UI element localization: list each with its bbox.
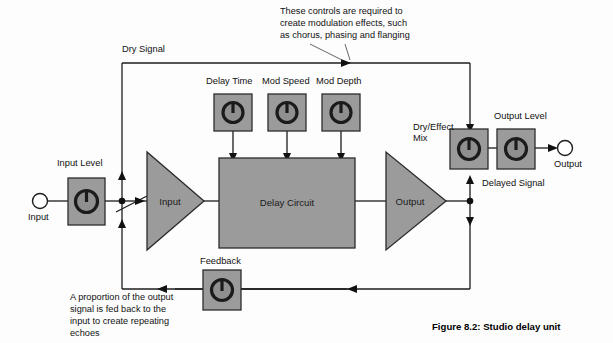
diagram-canvas: Input Output Delay Circuit Input Level D… (0, 0, 613, 343)
mod-speed-label: Mod Speed (262, 76, 310, 86)
input-amplifier[interactable]: Input (147, 152, 204, 250)
feedback-note-line-3: input to create repeating (70, 316, 169, 326)
arrowhead-delayed-into-mix (466, 175, 474, 184)
junction-dot-output (467, 198, 474, 205)
output-amp-label: Output (396, 196, 425, 207)
delayed-signal-label: Delayed Signal (482, 178, 545, 188)
figure-caption: Figure 8.2: Studio delay unit (432, 321, 561, 332)
arrowhead-dry-bus (341, 59, 351, 67)
leader-modulation-right (345, 44, 350, 60)
output-level-label: Output Level (494, 111, 547, 121)
feedback-note-line-2: signal is fed back to the (70, 304, 166, 314)
dry-effect-mix-label-line2: Mix (413, 133, 428, 143)
input-level-label: Input Level (57, 158, 103, 168)
modulation-note-line-2: create modulation effects, such (280, 18, 407, 28)
knob-feedback[interactable]: Feedback (200, 256, 241, 310)
input-jack-label: Input (28, 212, 49, 222)
dry-signal-label: Dry Signal (122, 44, 165, 54)
output-jack[interactable] (558, 141, 573, 156)
junction-dot-input (119, 198, 126, 205)
output-amplifier[interactable]: Output (386, 152, 446, 250)
delay-circuit-block[interactable]: Delay Circuit (219, 158, 355, 248)
modulation-note-line-1: These controls are required to (280, 6, 403, 16)
knob-mod-depth[interactable]: Mod Depth (316, 76, 361, 131)
modulation-note: These controls are required to create mo… (280, 6, 410, 40)
leader-modulation-left (310, 44, 342, 60)
dry-effect-mix-label-line1: Dry/Effect (413, 122, 454, 132)
knob-input-level[interactable]: Input Level (57, 158, 105, 225)
knob-dry-effect-mix[interactable]: Dry/Effect Mix (413, 122, 488, 169)
knob-output-level[interactable]: Output Level (494, 111, 547, 169)
output-jack-label: Output (554, 159, 582, 169)
feedback-note-line-4: echoes (70, 328, 100, 338)
arrowhead-feedback-left-2 (347, 285, 357, 293)
leader-lines (310, 44, 350, 60)
feedback-note-line-1: A proportion of the output (70, 292, 174, 302)
arrowhead-feedback-down (466, 217, 474, 226)
delay-circuit-label: Delay Circuit (260, 197, 315, 208)
knob-delay-time[interactable]: Delay Time (206, 76, 253, 131)
arrowhead-feedback-up (118, 219, 126, 228)
feedback-note: A proportion of the output signal is fed… (70, 292, 174, 338)
delay-time-label: Delay Time (206, 76, 253, 86)
studio-delay-unit-diagram: Input Output Delay Circuit Input Level D… (0, 0, 613, 343)
arrowhead-dry-riser (118, 171, 126, 180)
knob-mod-speed[interactable]: Mod Speed (262, 76, 310, 131)
arrowhead-to-output-jack (548, 144, 558, 152)
modulation-note-line-3: as chorus, phasing and flanging (280, 30, 410, 40)
feedback-label: Feedback (200, 256, 241, 266)
input-amp-label: Input (159, 196, 181, 207)
input-jack[interactable] (33, 194, 48, 209)
mod-depth-label: Mod Depth (316, 76, 361, 86)
